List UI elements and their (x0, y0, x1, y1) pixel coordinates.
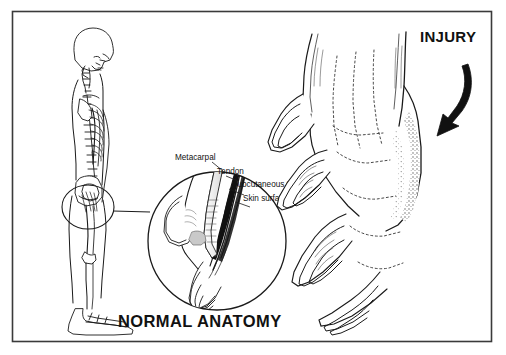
medical-illustration: Metacarpal Tendon Subcutaneous tissue Sk… (0, 0, 506, 355)
label-tendon: Tendon (217, 167, 244, 176)
label-injury: INJURY (420, 28, 476, 45)
illustration-canvas: Metacarpal Tendon Subcutaneous tissue Sk… (0, 0, 506, 355)
caption-normal-anatomy: NORMAL ANATOMY (118, 312, 282, 330)
label-metacarpal: Metacarpal (175, 153, 216, 162)
